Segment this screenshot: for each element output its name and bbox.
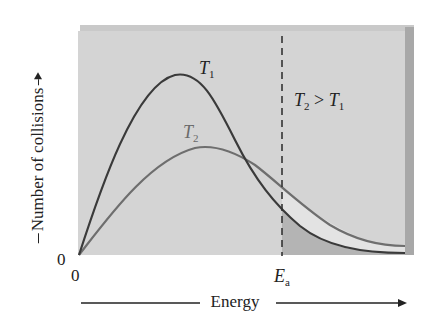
t1-main: T [199,58,209,78]
chart-canvas [0,0,433,333]
t1-sub: 1 [209,68,215,80]
ea-main: E [274,266,285,286]
t2-sub: 2 [193,132,199,144]
y-zero-tick: 0 [57,250,66,270]
t1-curve-label: T1 [199,58,215,79]
cmp-t2-sub: 2 [304,100,310,112]
t2-main: T [183,122,193,142]
cmp-t2: T [294,90,304,110]
ea-sub: a [285,276,290,288]
y-axis-arrow-icon [34,73,42,86]
y-axis-tail-line [38,233,39,243]
x-axis-label: Energy [205,292,266,312]
x-zero-tick: 0 [71,266,80,286]
cmp-op: > [310,90,329,110]
y-axis-label-text: Number of collisions [28,88,48,232]
t2-curve-label: T2 [183,122,199,143]
temperature-comparison-annotation: T2 > T1 [294,90,344,111]
ea-tick-label: Ea [274,266,290,287]
y-axis-label: Number of collisions [28,73,48,244]
cmp-t1: T [329,90,339,110]
plot-area [78,31,405,255]
x-axis-arrowhead-icon [398,299,407,307]
plot-frame-right-bevel [405,27,414,255]
cmp-t1-sub: 1 [339,100,345,112]
